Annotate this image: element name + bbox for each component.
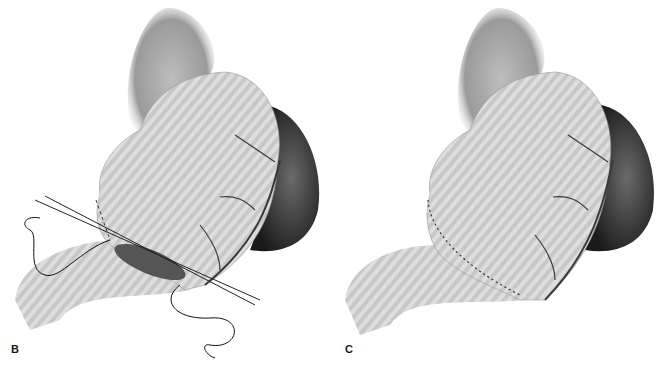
stomach-illustration-b [0, 0, 330, 366]
stomach-illustration-c [330, 0, 661, 366]
panel-label-b: B [11, 343, 19, 355]
panel-b: B [0, 0, 330, 366]
panel-c: C [330, 0, 661, 366]
panel-label-c: C [345, 343, 353, 355]
